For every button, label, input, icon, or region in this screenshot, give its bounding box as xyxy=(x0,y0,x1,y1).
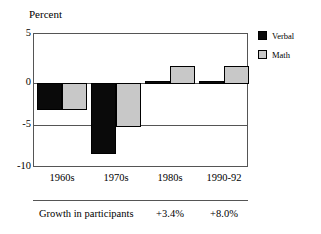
legend-label-verbal: Verbal xyxy=(272,31,294,41)
x-tick-label-1990-92: 1990-92 xyxy=(193,172,255,184)
bar-math-1980s xyxy=(170,66,195,84)
footer-label: Growth in participants xyxy=(39,207,133,220)
bar-verbal-1970s xyxy=(91,83,116,154)
bar-verbal-1960s xyxy=(37,83,62,110)
bar-group-1990-92 xyxy=(199,34,251,168)
bar-math-1970s xyxy=(116,83,141,127)
y-tick-label-0: 0 xyxy=(3,76,31,87)
x-tick-label-1970s: 1970s xyxy=(87,172,145,184)
bar-group-1960s xyxy=(37,34,89,168)
legend-label-math: Math xyxy=(272,50,290,60)
bar-verbal-1980s xyxy=(145,81,170,84)
legend-item-math: Math xyxy=(258,47,318,62)
y-axis-title: Percent xyxy=(29,8,62,21)
bar-math-1960s xyxy=(62,83,87,110)
footer-divider xyxy=(33,200,248,201)
y-tick-label-neg5: -5 xyxy=(3,118,31,129)
x-tick-label-1980s: 1980s xyxy=(141,172,199,184)
footer-value-1980s: +3.4% xyxy=(141,207,199,220)
legend-swatch-math-icon xyxy=(258,50,267,59)
bar-group-1980s xyxy=(145,34,197,168)
bar-verbal-1990-92 xyxy=(199,81,224,84)
bar-chart-figure: Percent 5 0 -5 -10 1960s 1 xyxy=(0,0,321,234)
x-tick-label-1960s: 1960s xyxy=(33,172,91,184)
y-tick-label-neg10: -10 xyxy=(3,160,31,171)
bar-math-1990-92 xyxy=(224,66,249,84)
bar-group-1970s xyxy=(91,34,143,168)
footer-value-1990-92: +8.0% xyxy=(193,207,255,220)
y-axis-tick-labels: 5 0 -5 -10 xyxy=(0,0,31,180)
legend-item-verbal: Verbal xyxy=(258,28,318,43)
chart-legend: Verbal Math xyxy=(258,28,318,66)
plot-area xyxy=(33,33,248,167)
legend-swatch-verbal-icon xyxy=(258,31,267,40)
y-tick-label-5: 5 xyxy=(3,27,31,38)
